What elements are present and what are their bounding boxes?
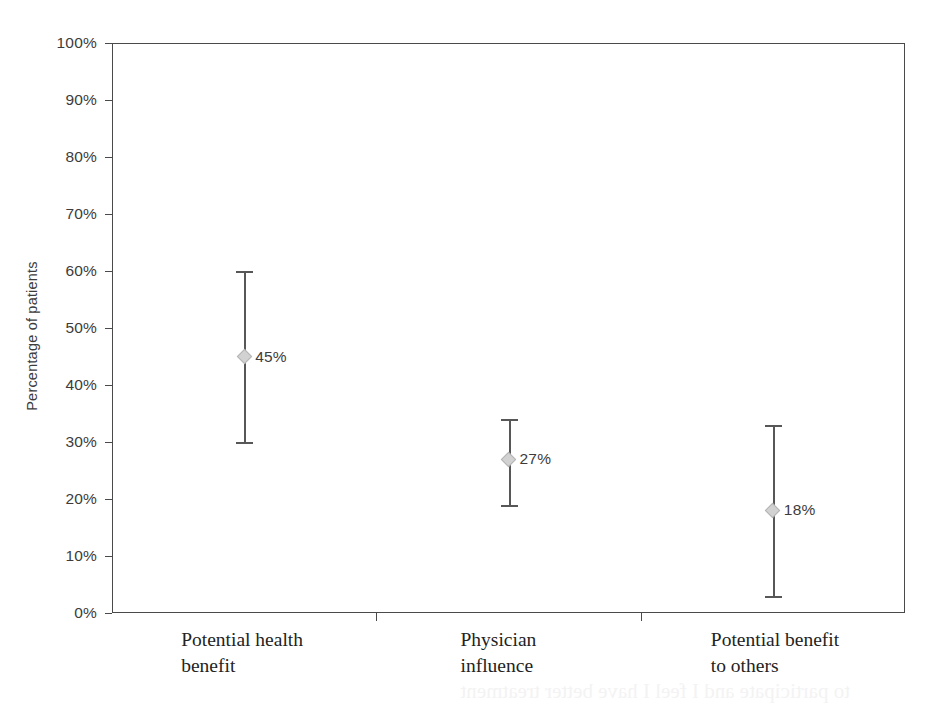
y-axis-tick	[105, 271, 112, 272]
y-axis-tick-label: 100%	[57, 35, 97, 51]
y-axis-tick	[105, 385, 112, 386]
y-axis-tick	[105, 328, 112, 329]
y-axis-tick	[105, 100, 112, 101]
data-point-value-label: 18%	[784, 502, 816, 518]
y-axis-tick	[105, 442, 112, 443]
x-axis-divider-tick	[641, 613, 642, 621]
y-axis-tick	[105, 613, 112, 614]
scan-bleedthrough-artifact: to participate and I feel I have better …	[150, 679, 850, 704]
y-axis-tick-label: 10%	[65, 548, 97, 564]
error-bar-cap-lower	[765, 596, 782, 598]
y-axis-tick	[105, 556, 112, 557]
x-axis-category-label: Potential health benefit	[181, 627, 303, 678]
x-axis-divider-tick	[376, 613, 377, 621]
error-bar-cap-upper	[765, 425, 782, 427]
y-axis-tick-label: 40%	[65, 377, 97, 393]
y-axis-tick	[105, 157, 112, 158]
plot-area	[112, 43, 905, 613]
x-axis-category-label: Potential benefit to others	[711, 627, 839, 678]
y-axis-tick	[105, 43, 112, 44]
data-point-value-label: 45%	[255, 349, 287, 365]
y-axis-tick-label: 20%	[65, 491, 97, 507]
y-axis-title: Percentage of patients	[24, 216, 40, 456]
data-point-value-label: 27%	[520, 451, 552, 467]
y-axis-tick-label: 90%	[65, 92, 97, 108]
error-bar-cap-lower	[236, 442, 253, 444]
chart-figure: 0%10%20%30%40%50%60%70%80%90%100% Percen…	[0, 0, 950, 716]
error-bar-cap-upper	[501, 419, 518, 421]
y-axis-tick-label: 50%	[65, 320, 97, 336]
y-axis-tick-label: 70%	[65, 206, 97, 222]
y-axis-tick	[105, 214, 112, 215]
error-bar-cap-lower	[501, 505, 518, 507]
error-bar-cap-upper	[236, 271, 253, 273]
y-axis-tick	[105, 499, 112, 500]
y-axis-tick-label: 0%	[74, 605, 97, 621]
y-axis-tick-label: 30%	[65, 434, 97, 450]
y-axis-tick-label: 80%	[65, 149, 97, 165]
y-axis-tick-label: 60%	[65, 263, 97, 279]
x-axis-category-label: Physician influence	[461, 627, 537, 678]
